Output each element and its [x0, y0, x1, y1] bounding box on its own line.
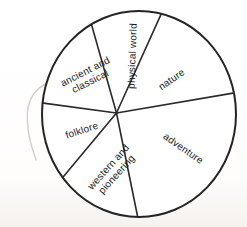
pie-chart-figure: nature physical world ancient and classi…: [0, 0, 247, 227]
pie-outline: [42, 11, 236, 217]
pie-svg: [0, 0, 247, 227]
segment-label-physical-world: physical world: [126, 23, 139, 89]
